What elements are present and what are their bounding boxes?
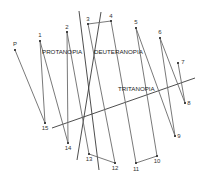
point-label: 10 — [154, 158, 161, 164]
cap-point-p: P — [13, 41, 17, 51]
cap-point-14: 14 — [65, 142, 72, 151]
point-label: 2 — [65, 24, 69, 30]
axis-labels: PROTANOPIA DEUTERANOPIA TRITANOPIA — [42, 48, 156, 92]
cap-point-15: 15 — [42, 122, 49, 131]
point-label: 1 — [38, 32, 42, 38]
axis-line-protanopia — [79, 11, 99, 170]
point-marker — [39, 40, 41, 42]
point-label: 6 — [158, 29, 162, 35]
axis-label-deuteranopia: DEUTERANOPIA — [94, 48, 144, 55]
point-label: 9 — [177, 133, 181, 139]
cap-point-5: 5 — [134, 19, 138, 29]
point-marker — [159, 37, 161, 39]
path-segment — [15, 50, 45, 123]
point-marker — [67, 142, 69, 144]
path-segment — [88, 24, 115, 163]
axis-label-protanopia: PROTANOPIA — [42, 48, 83, 55]
path-segment — [111, 21, 136, 163]
cap-point-12: 12 — [112, 162, 119, 171]
confusion-diagram: P123456789101112131415 PROTANOPIA DEUTER… — [0, 0, 202, 183]
path-segment — [160, 38, 175, 136]
path-segment — [178, 63, 185, 103]
path-segment — [89, 154, 115, 163]
arrangement-path — [15, 21, 185, 163]
point-label: P — [13, 41, 17, 47]
point-marker — [135, 162, 137, 164]
point-label: 8 — [187, 100, 191, 106]
cap-point-11: 11 — [133, 162, 140, 172]
point-marker — [44, 122, 46, 124]
cap-point-4: 4 — [109, 13, 113, 22]
point-marker — [66, 31, 68, 33]
axis-line-deuteranopia — [77, 12, 101, 160]
point-marker — [156, 155, 158, 157]
point-marker — [135, 27, 137, 29]
point-label: 12 — [112, 165, 119, 171]
point-label: 14 — [65, 145, 72, 151]
point-marker — [14, 49, 16, 51]
point-marker — [88, 153, 90, 155]
point-label: 3 — [86, 16, 90, 22]
point-label: 5 — [134, 19, 138, 25]
cap-point-1: 1 — [38, 32, 42, 42]
path-segment — [160, 38, 185, 103]
point-label: 7 — [181, 59, 185, 65]
cap-point-6: 6 — [158, 29, 162, 39]
point-label: 11 — [133, 166, 140, 172]
point-marker — [174, 135, 176, 137]
path-segment — [136, 28, 175, 136]
point-marker — [87, 23, 89, 25]
point-label: 15 — [42, 125, 49, 131]
point-marker — [177, 62, 179, 64]
point-label: 13 — [86, 156, 93, 162]
point-marker — [110, 20, 112, 22]
point-marker — [114, 162, 116, 164]
point-label: 4 — [109, 13, 113, 19]
cap-point-13: 13 — [86, 153, 93, 162]
axis-label-tritanopia: TRITANOPIA — [118, 85, 156, 92]
cap-point-8: 8 — [184, 100, 191, 106]
cap-point-2: 2 — [65, 24, 69, 33]
point-marker — [184, 102, 186, 104]
cap-points: P123456789101112131415 — [13, 13, 191, 172]
